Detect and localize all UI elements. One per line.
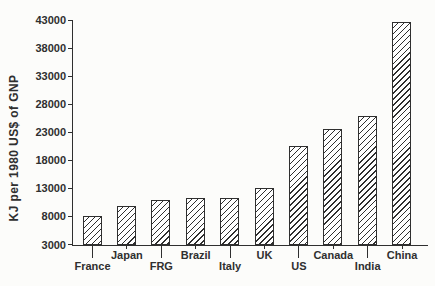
y-axis-tick	[68, 132, 73, 133]
y-tick-label: 3000	[20, 239, 66, 251]
bar-uk	[255, 188, 274, 245]
x-label-china: China	[370, 249, 434, 261]
bar-us	[289, 146, 308, 245]
y-axis-title: KJ per 1980 US$ of GNP	[7, 75, 21, 222]
x-axis-tick	[161, 246, 162, 258]
bar-chart-figure: KJ per 1980 US$ of GNP 30008000130001800…	[0, 0, 435, 286]
y-axis-tick	[68, 188, 73, 189]
y-tick-label: 33000	[20, 70, 66, 82]
y-tick-label: 28000	[20, 98, 66, 110]
bar-brazil	[186, 198, 205, 245]
y-axis-tick	[68, 160, 73, 161]
y-axis-tick	[68, 20, 73, 21]
x-label-india: India	[336, 260, 400, 272]
y-tick-label: 43000	[20, 14, 66, 26]
bar-india	[358, 116, 377, 245]
bar-frg	[151, 200, 170, 245]
x-axis-tick	[230, 246, 231, 258]
bar-china	[392, 22, 411, 245]
y-axis-tick	[68, 244, 73, 245]
bar-japan	[117, 206, 136, 245]
bar-italy	[220, 198, 239, 245]
y-axis-tick	[68, 216, 73, 217]
bar-france	[83, 216, 102, 245]
y-axis-tick	[68, 104, 73, 105]
y-tick-label: 38000	[20, 42, 66, 54]
y-tick-label: 8000	[20, 210, 66, 222]
y-tick-label: 18000	[20, 154, 66, 166]
x-axis-tick	[367, 246, 368, 258]
x-label-frg: FRG	[129, 260, 193, 272]
x-label-italy: Italy	[198, 260, 262, 272]
x-axis-tick	[92, 246, 93, 258]
x-label-france: France	[61, 260, 125, 272]
y-tick-label: 13000	[20, 182, 66, 194]
plot-area	[72, 20, 428, 246]
y-axis-tick	[68, 48, 73, 49]
bar-canada	[323, 129, 342, 245]
x-label-us: US	[267, 260, 331, 272]
y-axis-tick	[68, 76, 73, 77]
y-tick-label: 23000	[20, 126, 66, 138]
x-axis-tick	[298, 246, 299, 258]
